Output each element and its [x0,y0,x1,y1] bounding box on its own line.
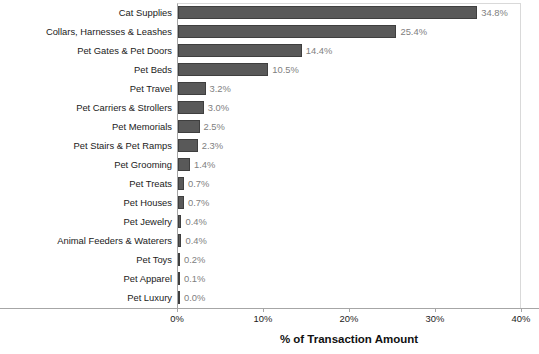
bar-row: Pet Jewelry0.4% [0,212,539,231]
bar-container: 0.4% [178,212,207,231]
category-label: Pet Travel [0,84,172,94]
x-tick-label: 0% [170,313,184,324]
bar [178,291,180,304]
bar-container: 25.4% [178,22,427,41]
bar-value-label: 14.4% [306,46,333,56]
bar-value-label: 0.1% [184,274,205,284]
category-label: Cat Supplies [0,8,172,18]
bar-container: 0.0% [178,288,205,307]
bar-row: Pet Treats0.7% [0,174,539,193]
category-label: Pet Houses [0,198,172,208]
category-label: Collars, Harnesses & Leashes [0,27,172,37]
x-axis-line [0,308,539,309]
bar-row: Pet Memorials2.5% [0,117,539,136]
bar-value-label: 25.4% [400,27,427,37]
bar-value-label: 2.5% [204,122,225,132]
bar-row: Pet Stairs & Pet Ramps2.3% [0,136,539,155]
x-tick [521,308,522,312]
bar [178,120,200,133]
bar-row: Pet Luxury0.0% [0,288,539,307]
bar [178,234,181,247]
bar-row: Pet Houses0.7% [0,193,539,212]
category-label: Pet Carriers & Strollers [0,103,172,113]
category-label: Pet Apparel [0,274,172,284]
bar-value-label: 0.2% [184,255,205,265]
bar-row: Collars, Harnesses & Leashes25.4% [0,22,539,41]
bar [178,101,204,114]
category-label: Pet Luxury [0,293,172,303]
bar-container: 0.4% [178,231,207,250]
bar [178,25,396,38]
x-tick [263,308,264,312]
x-tick-label: 20% [340,313,359,324]
bar [178,6,477,19]
bar [178,215,181,228]
bar-container: 0.7% [178,193,209,212]
bar-row: Cat Supplies34.8% [0,3,539,22]
bar-container: 0.7% [178,174,209,193]
x-tick [177,308,178,312]
horizontal-bar-chart: Cat Supplies34.8%Collars, Harnesses & Le… [0,0,539,354]
bar-row: Pet Beds10.5% [0,60,539,79]
bar [178,272,180,285]
category-label: Animal Feeders & Waterers [0,236,172,246]
bar [178,44,302,57]
bar-value-label: 3.2% [210,84,231,94]
bar [178,177,184,190]
bar [178,63,268,76]
bar-value-label: 3.0% [208,103,229,113]
category-label: Pet Jewelry [0,217,172,227]
bar-row: Pet Travel3.2% [0,79,539,98]
bar [178,139,198,152]
bar-value-label: 34.8% [481,8,508,18]
bar-row: Pet Grooming1.4% [0,155,539,174]
bar-container: 0.1% [178,269,205,288]
bar-container: 0.2% [178,250,205,269]
bar-container: 2.5% [178,117,225,136]
bar-value-label: 0.4% [185,236,206,246]
category-label: Pet Grooming [0,160,172,170]
bar-value-label: 2.3% [202,141,223,151]
bar-container: 3.2% [178,79,231,98]
bar-container: 3.0% [178,98,229,117]
bar-rows: Cat Supplies34.8%Collars, Harnesses & Le… [0,3,539,307]
x-axis-title: % of Transaction Amount [177,333,521,345]
category-label: Pet Beds [0,65,172,75]
x-tick-label: 40% [512,313,531,324]
bar-container: 10.5% [178,60,299,79]
bar-value-label: 0.4% [185,217,206,227]
bar [178,196,184,209]
x-tick [349,308,350,312]
x-tick-label: 10% [254,313,273,324]
bar-container: 14.4% [178,41,332,60]
category-label: Pet Gates & Pet Doors [0,46,172,56]
bar [178,253,180,266]
bar [178,82,206,95]
bar-value-label: 0.7% [188,179,209,189]
bar-value-label: 0.7% [188,198,209,208]
bar-container: 34.8% [178,3,508,22]
x-tick-label: 30% [426,313,445,324]
bar-row: Pet Apparel0.1% [0,269,539,288]
bar-row: Pet Toys0.2% [0,250,539,269]
category-label: Pet Toys [0,255,172,265]
bar-value-label: 10.5% [272,65,299,75]
bar-container: 2.3% [178,136,223,155]
bar-row: Animal Feeders & Waterers0.4% [0,231,539,250]
category-label: Pet Stairs & Pet Ramps [0,141,172,151]
bar-container: 1.4% [178,155,215,174]
bar-value-label: 1.4% [194,160,215,170]
bar-value-label: 0.0% [184,293,205,303]
bar [178,158,190,171]
bar-row: Pet Gates & Pet Doors14.4% [0,41,539,60]
category-label: Pet Memorials [0,122,172,132]
x-tick [435,308,436,312]
category-label: Pet Treats [0,179,172,189]
bar-row: Pet Carriers & Strollers3.0% [0,98,539,117]
